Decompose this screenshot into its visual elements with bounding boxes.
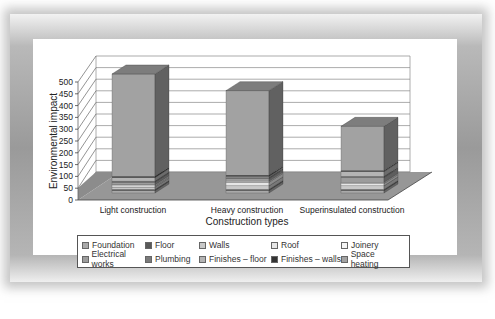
y-tick-label: 150	[59, 160, 73, 170]
bar-segment	[112, 178, 155, 182]
legend-item: Walls	[199, 240, 271, 250]
x-tick-label: Superinsulated construction	[300, 205, 405, 215]
bar-segment	[112, 187, 155, 189]
bar-segment	[112, 191, 155, 193]
bar-segment	[341, 191, 384, 193]
y-tick-label: 0	[68, 195, 73, 205]
legend-swatch	[341, 256, 348, 263]
x-axis-labels: Light constructionHeavy constructionSupe…	[100, 205, 405, 215]
legend-swatch	[199, 256, 206, 263]
legend-swatch	[82, 256, 89, 263]
legend-label: Walls	[209, 240, 229, 250]
y-tick-label: 100	[59, 171, 73, 181]
bar-segment	[341, 182, 384, 183]
bar-segment	[226, 182, 269, 186]
legend-label: Electrical works	[92, 249, 145, 269]
y-tick-label: 250	[59, 136, 73, 146]
legend: FoundationFloorWallsRoofJoinery Electric…	[77, 235, 410, 268]
bar-segment	[112, 181, 155, 182]
bar-segment	[226, 181, 269, 182]
legend-item: Space heating	[341, 249, 401, 269]
bar-segment	[112, 186, 155, 187]
legend-swatch	[341, 242, 348, 249]
y-tick-label: 500	[59, 77, 73, 87]
bar-segment	[341, 178, 384, 183]
bar-segment	[341, 176, 384, 177]
bar-2	[341, 117, 398, 193]
bar-1	[226, 82, 283, 193]
legend-row-2: Electrical worksPlumbingFinishes – floor…	[82, 252, 405, 266]
x-tick-label: Light construction	[100, 205, 167, 215]
y-tick-label: 300	[59, 124, 73, 134]
bar-segment	[226, 186, 269, 190]
bar-segment	[341, 189, 384, 190]
bar-segment	[341, 183, 384, 185]
legend-swatch	[271, 256, 278, 263]
legend-label: Finishes – floor	[209, 254, 267, 264]
bars	[112, 65, 398, 193]
legend-swatch	[271, 242, 278, 249]
bar-segment	[341, 186, 384, 190]
legend-swatch	[199, 242, 206, 249]
legend-item: Electrical works	[82, 249, 145, 269]
legend-label: Floor	[155, 240, 174, 250]
legend-item: Roof	[271, 240, 341, 250]
x-tick-label: Heavy construction	[211, 205, 284, 215]
bar-segment	[226, 191, 269, 193]
legend-label: Plumbing	[155, 254, 190, 264]
legend-swatch	[145, 256, 152, 263]
y-tick-label: 50	[64, 183, 74, 193]
bar-segment	[112, 176, 155, 177]
bar-segment	[112, 185, 155, 186]
bar-segment	[112, 74, 155, 176]
bar-segment	[112, 189, 155, 190]
legend-label: Roof	[281, 240, 299, 250]
bar-segment	[341, 170, 384, 171]
y-tick-label: 450	[59, 89, 73, 99]
legend-item: Plumbing	[145, 254, 199, 264]
y-tick-label: 400	[59, 101, 73, 111]
bar-segment	[226, 178, 269, 179]
bar-segment	[112, 182, 155, 184]
y-axis-ticks: 050100150200250300350400450500	[59, 77, 78, 205]
legend-swatch	[82, 242, 89, 249]
bar-segment	[226, 189, 269, 190]
x-axis-title: Construction types	[206, 216, 289, 227]
bar-segment	[226, 91, 269, 175]
bar-segment	[226, 179, 269, 181]
y-tick-label: 200	[59, 148, 73, 158]
bar-segment	[341, 126, 384, 170]
legend-item: Finishes – walls	[271, 254, 341, 264]
legend-label: Space heating	[351, 249, 401, 269]
bar-segment	[341, 172, 384, 177]
bar-0	[112, 65, 169, 193]
legend-item: Floor	[145, 240, 199, 250]
legend-label: Finishes – walls	[281, 254, 341, 264]
chart-svg: 050100150200250300350400450500 Light con…	[0, 0, 495, 319]
y-tick-label: 350	[59, 112, 73, 122]
bar-segment	[226, 176, 269, 177]
legend-swatch	[145, 242, 152, 249]
legend-item: Finishes – floor	[199, 254, 271, 264]
y-axis-title: Environmental impact	[48, 93, 59, 189]
bar-segment	[226, 175, 269, 176]
